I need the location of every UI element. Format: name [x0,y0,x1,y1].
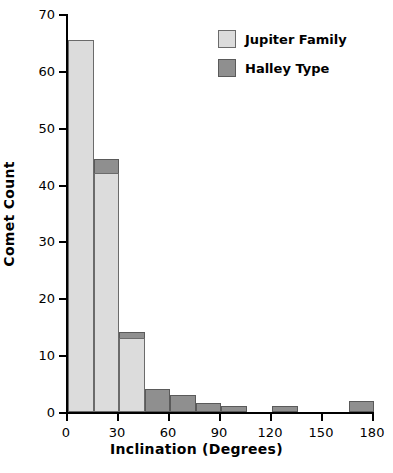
y-tick-label: 40 [38,177,55,192]
y-tick-label: 50 [38,120,55,135]
y-tick [59,128,66,130]
legend-item-halley-type: Halley Type [218,59,347,77]
y-tick-label: 30 [38,234,55,249]
histogram-bar [221,406,247,412]
histogram-bar [94,173,120,412]
x-tick-label: 90 [211,425,228,440]
y-tick-label: 60 [38,63,55,78]
legend: Jupiter Family Halley Type [218,30,347,77]
legend-swatch-icon [218,30,236,48]
x-tick-label: 150 [309,425,334,440]
y-tick [59,185,66,187]
histogram-bar [272,406,298,412]
x-tick [270,414,272,421]
histogram-bar [119,338,145,412]
histogram-bar [145,389,171,412]
y-tick-label: 0 [47,405,55,420]
legend-item-label: Halley Type [245,61,329,76]
legend-swatch-icon [218,59,236,77]
x-tick [372,414,374,421]
y-tick [59,412,66,414]
y-axis-title: Comet Count [1,161,17,266]
comet-inclination-histogram: 010203040506070 0306090120150180 Comet C… [0,0,393,473]
y-tick [59,298,66,300]
histogram-bar [68,40,94,412]
x-tick [321,414,323,421]
y-tick [59,14,66,16]
x-tick-label: 120 [258,425,283,440]
x-tick [168,414,170,421]
histogram-bar [196,403,222,412]
x-tick-label: 30 [109,425,126,440]
legend-item-label: Jupiter Family [245,32,347,47]
histogram-bar [349,401,375,412]
x-tick [117,414,119,421]
x-tick-label: 0 [62,425,70,440]
x-tick [219,414,221,421]
histogram-bar [170,395,196,412]
x-tick-label: 180 [360,425,385,440]
y-tick [59,355,66,357]
x-tick-label: 60 [160,425,177,440]
y-tick [59,241,66,243]
y-tick-label: 70 [38,7,55,22]
y-tick [59,71,66,73]
y-tick-label: 20 [38,291,55,306]
legend-item-jupiter-family: Jupiter Family [218,30,347,48]
y-tick-label: 10 [38,348,55,363]
x-tick [66,414,68,421]
x-axis-title: Inclination (Degrees) [0,441,393,457]
